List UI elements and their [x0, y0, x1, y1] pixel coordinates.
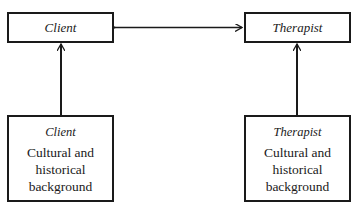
- client-box: Client: [7, 12, 114, 43]
- therapist-background-desc: Cultural and historical background: [246, 144, 349, 195]
- therapist-background-title: Therapist: [246, 125, 349, 140]
- therapist-background-box: Therapist Cultural and historical backgr…: [244, 115, 351, 202]
- client-background-desc: Cultural and historical background: [9, 144, 112, 195]
- therapist-label: Therapist: [273, 20, 323, 36]
- desc-line: Cultural and: [9, 144, 112, 161]
- client-label: Client: [45, 20, 77, 36]
- client-background-box: Client Cultural and historical backgroun…: [7, 115, 114, 202]
- client-background-title: Client: [9, 125, 112, 140]
- desc-line: background: [9, 178, 112, 195]
- desc-line: Cultural and: [246, 144, 349, 161]
- desc-line: historical: [9, 161, 112, 178]
- desc-line: background: [246, 178, 349, 195]
- therapist-box: Therapist: [244, 12, 351, 43]
- desc-line: historical: [246, 161, 349, 178]
